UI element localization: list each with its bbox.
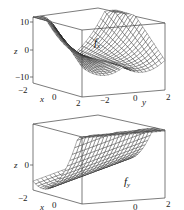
plot-fy-surface-mesh <box>33 128 165 189</box>
plot-fy-surface-label: fy <box>124 175 131 189</box>
plot-fy-z-axis-title: z <box>13 160 18 170</box>
plot-fy: 0 z −2 x 0 0 2 fy <box>13 115 171 210</box>
plot-fy-y-tick-2: 2 <box>166 199 171 209</box>
plot-fx-x-tick-0: 0 <box>52 92 57 102</box>
plot-fy-x-tick-neg2: −2 <box>18 193 28 203</box>
plot-fy-y-tick-0: 0 <box>133 202 138 210</box>
plot-fx-z-tick-0: 0 <box>25 45 30 55</box>
plot-fx-z-axis: 10 0 −10 z <box>13 17 33 82</box>
plot-fx-z-tick-neg10: −10 <box>15 72 30 82</box>
figure: 10 0 −10 z −2 x 0 2 −2 0 y 2 fx <box>0 0 184 210</box>
plot-fx-y-tick-neg2: −2 <box>100 95 110 105</box>
plot-fy-z-tick-0: 0 <box>25 160 30 170</box>
plot-fx-x-tick-neg2: −2 <box>18 85 28 95</box>
plot-fy-xy-axis-labels: −2 x 0 0 2 <box>18 193 171 210</box>
plot-fx-y-tick-0: 0 <box>133 93 138 103</box>
plot-fx-y-tick-2: 2 <box>166 92 171 102</box>
plot-fx-x-tick-2: 2 <box>76 98 81 108</box>
plot-fx-xy-axis-labels: −2 x 0 2 −2 0 y 2 <box>18 85 171 108</box>
plot-fy-x-tick-0: 0 <box>52 200 57 210</box>
plot-fx-y-axis-title: y <box>141 97 146 107</box>
plot-fx: 10 0 −10 z −2 x 0 2 −2 0 y 2 fx <box>13 8 171 108</box>
plot-fy-z-axis: 0 z <box>13 160 33 170</box>
plot-fx-z-tick-10: 10 <box>20 17 30 27</box>
plot-fy-x-axis-title: x <box>39 202 44 210</box>
plot-fx-z-axis-title: z <box>13 46 18 56</box>
plot-fx-x-axis-title: x <box>39 94 44 104</box>
